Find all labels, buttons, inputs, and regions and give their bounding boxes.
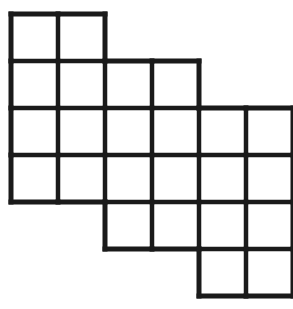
- grid-cell: [152, 61, 199, 108]
- grid-cell: [105, 202, 152, 249]
- grid-cell: [105, 155, 152, 202]
- grid-cell: [105, 108, 152, 155]
- grid-cell: [11, 61, 58, 108]
- grid-cell: [152, 108, 199, 155]
- grid-cell: [246, 108, 293, 155]
- grid-cell: [199, 249, 246, 296]
- grid-cell: [199, 108, 246, 155]
- grid-cell: [199, 202, 246, 249]
- grid-cell: [199, 155, 246, 202]
- grid-cell: [58, 155, 105, 202]
- grid-cell: [58, 14, 105, 61]
- grid-cell: [11, 108, 58, 155]
- grid-cell: [11, 14, 58, 61]
- grid-cell: [246, 155, 293, 202]
- grid-cell: [152, 155, 199, 202]
- grid-cell: [152, 202, 199, 249]
- grid-cell: [11, 155, 58, 202]
- staircase-grid-diagram: [0, 0, 293, 309]
- grid-cell: [105, 61, 152, 108]
- grid-cell: [246, 202, 293, 249]
- figure-canvas: [0, 0, 293, 309]
- grid-cell: [58, 108, 105, 155]
- grid-cell: [246, 249, 293, 296]
- grid-cell: [58, 61, 105, 108]
